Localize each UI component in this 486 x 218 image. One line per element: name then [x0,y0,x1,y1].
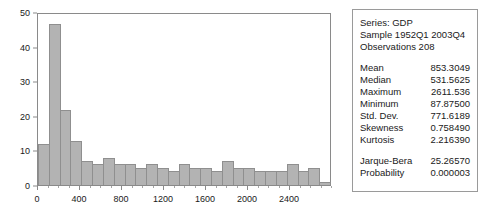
y-axis-tick-label: 40 [20,43,30,52]
x-axis-tick-mark [195,186,196,188]
x-axis-tick-mark [247,186,248,190]
x-axis-tick-mark [321,186,322,188]
y-axis-tick-label: 50 [20,9,30,18]
x-axis-tick-mark [174,186,175,188]
spacer [353,146,477,155]
x-axis-tick-label: 2000 [237,195,257,204]
y-axis-tick-label: 20 [20,112,30,121]
statistics-row-label: Maximum [360,86,401,98]
histogram-bars [38,14,330,185]
statistics-row: Median531.5625 [353,74,477,86]
x-axis-tick-label: 1200 [153,195,173,204]
statistics-row: Maximum2611.536 [353,86,477,98]
x-axis-tick-label: 0 [34,195,39,204]
x-axis-tick-label: 2400 [279,195,299,204]
x-axis-tick-mark [300,186,301,188]
x-axis-tick-mark [90,186,91,188]
histogram-statistics-view: 01020304050 04008001200160020002400 Seri… [0,0,486,218]
y-axis-tick-label: 0 [25,182,30,191]
statistics-row: Minimum87.87500 [353,98,477,110]
x-axis-tick-mark [310,186,311,188]
statistics-row-label: Jarque-Bera [360,155,412,167]
y-axis-tick-label: 30 [20,78,30,87]
statistics-row-value: 87.87500 [430,98,470,110]
x-axis-tick-mark [48,186,49,188]
statistics-header-row: Observations 208 [353,41,477,53]
statistics-row-label: Skewness [360,122,403,134]
statistics-row-label: Median [360,74,391,86]
statistics-row-value: 0.758490 [430,122,470,134]
x-axis-tick-mark [216,186,217,188]
statistics-header-row: Series: GDP [353,17,477,29]
x-axis-tick-mark [279,186,280,188]
statistics-panel: Series: GDPSample 1952Q1 2003Q4Observati… [352,9,478,192]
x-axis-tick-mark [37,186,38,190]
statistics-row: Kurtosis2.216390 [353,134,477,146]
statistics-row-label: Probability [360,167,404,179]
statistics-row: Probability0.000003 [353,167,477,179]
x-axis-tick-mark [163,186,164,190]
statistics-row: Skewness0.758490 [353,122,477,134]
statistics-row-label: Kurtosis [360,134,394,146]
x-axis-tick-mark [142,186,143,188]
spacer [353,53,477,62]
x-axis-tick-mark [268,186,269,188]
x-axis-tick-label: 1600 [195,195,215,204]
x-axis: 04008001200160020002400 [37,186,331,216]
statistics-row: Mean853.3049 [353,62,477,74]
x-axis-tick-mark [153,186,154,188]
statistics-row-value: 2611.536 [431,86,470,98]
statistics-row-value: 25.26570 [430,155,470,167]
histogram-panel: 01020304050 04008001200160020002400 [0,0,340,218]
histogram-bar [319,182,331,185]
x-axis-tick-mark [289,186,290,190]
statistics-tests: Jarque-Bera25.26570Probability0.000003 [353,155,477,179]
y-axis-tick-label: 10 [20,147,30,156]
x-axis-tick-mark [100,186,101,188]
x-axis-tick-mark [237,186,238,188]
statistics-header-row-label: Sample 1952Q1 2003Q4 [360,29,465,41]
x-axis-tick-mark [184,186,185,188]
statistics-row-value: 0.000003 [430,167,470,179]
x-axis-tick-mark [79,186,80,190]
x-axis-tick-label: 400 [71,195,86,204]
statistics-row-value: 2.216390 [430,134,470,146]
plot-area [37,13,331,186]
x-axis-tick-mark [331,186,332,188]
statistics-row: Jarque-Bera25.26570 [353,155,477,167]
x-axis-tick-mark [58,186,59,188]
x-axis-tick-mark [111,186,112,188]
x-axis-tick-label: 800 [113,195,128,204]
statistics-row: Std. Dev.771.6189 [353,110,477,122]
statistics-header-row-label: Observations 208 [360,41,434,53]
statistics-moments: Mean853.3049Median531.5625Maximum2611.53… [353,62,477,146]
statistics-row-label: Std. Dev. [360,110,398,122]
x-axis-tick-mark [132,186,133,188]
x-axis-tick-mark [69,186,70,188]
statistics-row-label: Mean [360,62,384,74]
x-axis-tick-mark [205,186,206,190]
x-axis-tick-mark [121,186,122,190]
statistics-row-value: 853.3049 [430,62,470,74]
y-axis: 01020304050 [0,13,37,187]
statistics-header-row-label: Series: GDP [360,17,413,29]
x-axis-tick-mark [258,186,259,188]
statistics-row-label: Minimum [360,98,399,110]
x-axis-tick-mark [226,186,227,188]
statistics-header: Series: GDPSample 1952Q1 2003Q4Observati… [353,17,477,53]
statistics-header-row: Sample 1952Q1 2003Q4 [353,29,477,41]
statistics-row-value: 531.5625 [430,74,470,86]
statistics-row-value: 771.6189 [430,110,470,122]
